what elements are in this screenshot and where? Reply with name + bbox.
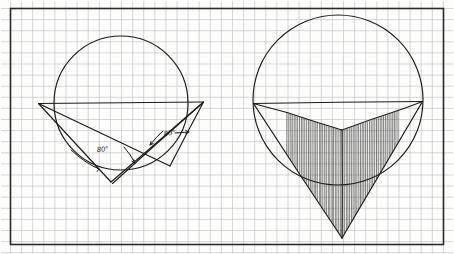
geometry-diagram-page: 80°80° (0, 0, 454, 254)
paper-background (0, 0, 454, 254)
diagram-canvas: 80°80° (0, 0, 454, 254)
angle-at-C-label: 80° (97, 144, 109, 154)
angle-at-D-label: 80° (163, 128, 175, 138)
